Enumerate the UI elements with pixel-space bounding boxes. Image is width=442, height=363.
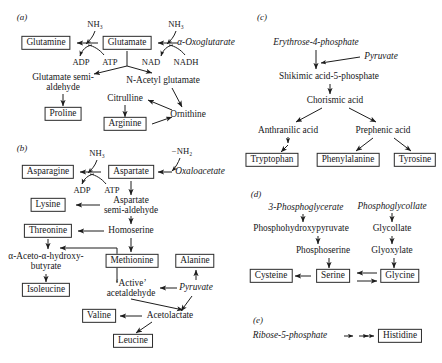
node-asparagine: Asparagine [22,165,74,179]
panel-label-e: (e) [253,315,263,325]
node-histidine: Histidine [378,329,422,343]
node-serine: Serine [316,269,350,283]
node-aspartate-semialdehyde: Aspartatesemi-aldehyde [89,196,173,216]
node-tryptophan: Tryptophan [245,153,298,167]
node-aspartate: Aspartate [108,165,154,179]
node-ornithine: Ornithine [170,110,206,120]
node-phosphohydroxypyruvate: Phosphohydroxypyruvate [253,224,349,234]
cofactor-ammonia-asparagine: NH₃ [89,148,104,158]
node-proline: Proline [45,107,82,121]
node-homoserine: Homoserine [108,226,153,236]
node-n-acetyl-glutamate: N-Acetyl glutamate [126,76,200,86]
cofactor-adp-b: ADP [73,185,90,195]
node-leucine: Leucine [113,334,153,348]
cofactor-nad: NAD [142,57,161,67]
node-glutamine: Glutamine [21,36,70,50]
node-phosphoserine: Phosphoserine [296,246,350,256]
panel-label-c: (c) [257,12,267,22]
panel-label-d: (d) [251,189,262,199]
node-lysine: Lysine [31,198,66,212]
node-valine: Valine [82,309,116,323]
node-glyoxylate: Glyoxylate [371,246,412,256]
node-glutamate: Glutamate [103,36,152,50]
pathway-diagram: (a) (b) (c) (d) (e) Glutamine Glutamate … [0,0,442,363]
node-3-phosphoglycerate: 3-Phosphoglycerate [269,203,344,213]
node-oxaloacetate: Oxaloacetate [175,167,225,177]
cofactor-atp: ATP [102,57,117,67]
panel-label-b: (b) [17,143,28,153]
cofactor-nadh: NADH [174,57,199,67]
node-threonine: Threonine [24,224,72,238]
node-tyrosine: Tyrosine [394,153,436,167]
node-glycollate: Glycollate [373,224,412,234]
node-phosphoglycollate: Phosphoglycollate [357,202,426,212]
node-erythrose-4-phosphate: Erythrose-4-phosphate [273,38,358,48]
cofactor-adp: ADP [72,57,89,67]
node-citrulline: Citrulline [107,94,143,104]
node-ribose-5-phosphate: Ribose-5-phosphate [253,331,327,341]
node-isoleucine: Isoleucine [22,283,70,297]
cofactor-amino-group: −NH₂ [172,146,192,156]
node-glycine: Glycine [380,269,419,283]
node-alpha-oxoglutarate: α-Oxoglutarate [177,38,235,48]
node-arginine: Arginine [104,117,147,131]
node-aceto-hydroxybutyrate: α-Aceto-α-hydroxy-butyrate [0,252,100,272]
node-pyruvate-c: Pyruvate [364,52,398,62]
node-phenylalanine: Phenylalanine [317,153,380,167]
node-acetolactate: Acetolactate [147,311,193,321]
cofactor-ammonia-glutamate: NH₃ [168,19,183,29]
node-active-acetaldehyde: ‘Active’acetaldehyde [94,279,168,299]
node-shikimic-acid-5-phosphate: Shikimic acid-5-phosphate [279,72,379,82]
node-cysteine: Cysteine [250,269,293,283]
cofactor-ammonia-glutamine: NH₃ [87,19,102,29]
node-chorismic-acid: Chorismic acid [307,96,364,106]
node-prephenic-acid: Prephenic acid [356,126,411,136]
node-pyruvate-b: Pyruvate [179,283,213,293]
node-glutamate-semialdehyde: Glutamate semi-aldehyde [16,73,110,93]
node-alanine: Alanine [175,254,214,268]
node-methionine: Methionine [106,254,159,268]
panel-label-a: (a) [17,12,28,22]
cofactor-atp-b: ATP [104,185,119,195]
node-anthranilic-acid: Anthranilic acid [258,126,318,136]
